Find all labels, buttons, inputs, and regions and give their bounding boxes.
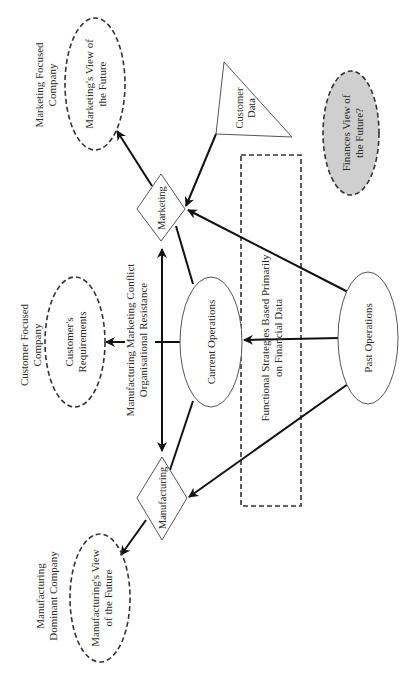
finance-view-text-1: Finances View of: [340, 94, 352, 171]
past-operations-text: Past Operations: [362, 303, 374, 372]
marketing-view-text-1: Marketing's View of: [83, 39, 95, 129]
manufacturing-company-label-1: Manufacturing: [34, 563, 46, 629]
edge-marketing-to-view: [117, 131, 152, 186]
marketing-node-text: Marketing: [156, 185, 167, 229]
edge-customerdata-to-marketing: [186, 134, 216, 206]
marketing-view-text-2: the Future: [96, 61, 108, 106]
customer-requirements-ellipse: [45, 277, 105, 407]
manufacturing-company-label-2: Dominant Company: [47, 551, 59, 641]
finance-view-text-2: the Future?: [353, 108, 365, 158]
edge-manufacturing-to-view: [121, 520, 146, 555]
manufacturing-view-text-1: Manufacturing's View: [89, 549, 101, 646]
strategy-diagram: Marketing Focused Company Customer Focus…: [0, 0, 404, 684]
marketing-view-ellipse: [65, 18, 125, 150]
manufacturing-node-text: Manufacturing: [157, 466, 168, 529]
customer-company-label-2: Company: [31, 323, 43, 366]
strategy-label-2: on Financial Data: [272, 299, 284, 377]
edge-current-to-manufacturing: [170, 401, 193, 470]
marketing-company-label-2: Company: [46, 63, 58, 106]
conflict-label-1: Manufacturing Marketing Conflict: [124, 264, 136, 417]
marketing-company-label-1: Marketing Focused: [33, 42, 45, 128]
customer-data-text-2: Data: [246, 98, 257, 118]
customer-requirements-text-2: Requirements: [76, 311, 88, 372]
edge-current-to-marketing: [176, 226, 193, 284]
current-operations-text: Current Operations: [205, 300, 217, 385]
conflict-label-2: Organisational Resistance: [137, 283, 149, 397]
customer-requirements-text-1: Customer's: [63, 317, 75, 366]
customer-data-text-1: Customer: [234, 87, 245, 128]
manufacturing-view-text-2: of the Future: [102, 569, 114, 626]
strategy-label-1: Functional Strategies Based Primarily: [259, 254, 271, 422]
customer-company-label-1: Customer Focused: [18, 303, 30, 386]
